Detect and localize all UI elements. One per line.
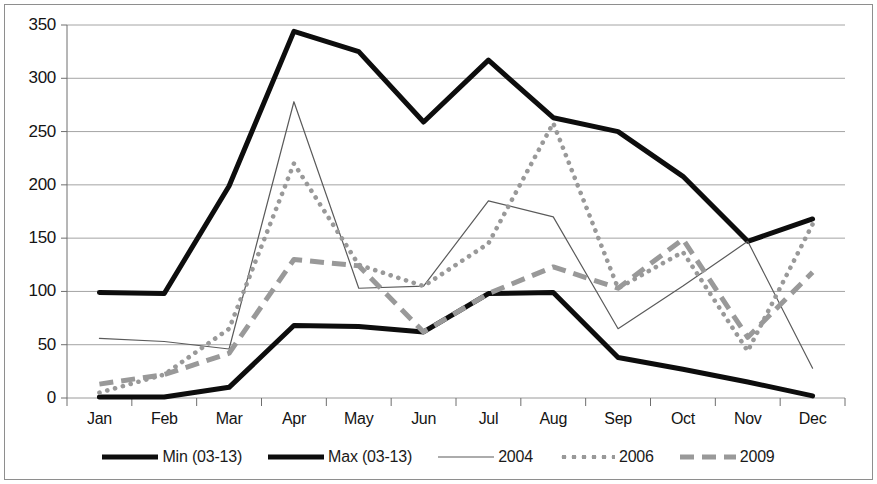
legend-label: 2009 [740,448,775,466]
y-axis-label: 50 [12,335,56,355]
legend-item[interactable]: 2006 [559,448,654,466]
y-axis-label: 350 [12,15,56,35]
legend-label: Max (03-13) [328,448,412,466]
legend-item[interactable]: Min (03-13) [102,448,242,466]
data-series-group [99,31,812,397]
chart-legend: Min (03-13)Max (03-13)200420062009 [0,432,877,482]
x-axis-label: Sep [604,410,632,428]
x-axis-label: Feb [151,410,178,428]
series-line-max-03-13 [99,31,812,293]
y-axis-label: 300 [12,68,56,88]
x-axis-label: Aug [539,410,567,428]
y-axis-label: 0 [12,388,56,408]
x-axis-label: Oct [671,410,695,428]
series-line-2009 [99,239,812,384]
x-axis-label: May [344,410,373,428]
y-axis-label: 100 [12,281,56,301]
thick-solid-line-swatch [102,450,158,464]
y-axis-ticks [61,25,67,398]
legend-label: 2004 [498,448,533,466]
legend-item[interactable]: 2009 [680,448,775,466]
y-axis-label: 200 [12,175,56,195]
legend-item[interactable]: Max (03-13) [268,448,412,466]
line-chart-svg [0,0,877,430]
x-axis-label: Jun [411,410,436,428]
legend-swatch-line [559,455,615,459]
legend-label: Min (03-13) [162,448,242,466]
dashed-line-swatch [680,450,736,464]
legend-swatch-line [680,455,736,460]
chart-plot-area: 050100150200250300350 JanFebMarAprMayJun… [0,0,877,430]
x-axis-ticks [67,398,845,406]
x-axis-label: Jul [479,410,499,428]
thin-solid-line-swatch [438,450,494,464]
chart-screenshot: 050100150200250300350 JanFebMarAprMayJun… [0,0,877,484]
legend-swatch-line [102,455,158,460]
x-axis-label: Nov [734,410,762,428]
thick-solid-line-swatch [268,450,324,464]
series-line-2004 [99,102,812,368]
gridlines [67,25,845,398]
x-axis-label: Dec [799,410,827,428]
x-axis-label: Jan [87,410,112,428]
legend-item[interactable]: 2004 [438,448,533,466]
legend-label: 2006 [619,448,654,466]
y-axis-label: 250 [12,122,56,142]
x-axis-label: Apr [282,410,306,428]
x-axis-label: Mar [216,410,243,428]
series-line-2006 [99,123,812,393]
legend-swatch-line [268,455,324,460]
y-axis-label: 150 [12,228,56,248]
legend-swatch-line [438,457,494,458]
dotted-line-swatch [559,450,615,464]
